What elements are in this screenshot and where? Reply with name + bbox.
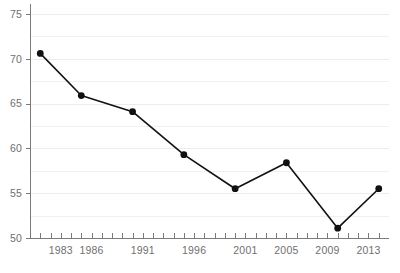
x-tick-label: 1996 bbox=[182, 244, 206, 256]
line-chart: 505560657075 198319861991199620012005200… bbox=[0, 0, 400, 273]
x-tick-label: 1983 bbox=[49, 244, 73, 256]
data-point-marker bbox=[375, 185, 382, 192]
chart-canvas: 505560657075 198319861991199620012005200… bbox=[0, 0, 400, 273]
y-tick-label: 60 bbox=[10, 142, 22, 154]
y-tick-label: 65 bbox=[10, 97, 22, 109]
chart-background bbox=[0, 0, 400, 273]
x-tick-label: 1986 bbox=[79, 244, 103, 256]
data-point-marker bbox=[129, 108, 136, 115]
y-tick-label: 55 bbox=[10, 187, 22, 199]
data-point-marker bbox=[180, 151, 187, 158]
x-tick-label: 2013 bbox=[356, 244, 380, 256]
data-point-marker bbox=[78, 92, 85, 99]
data-point-marker bbox=[334, 225, 341, 232]
data-point-marker bbox=[232, 185, 239, 192]
x-tick-label: 2001 bbox=[233, 244, 257, 256]
y-tick-label: 75 bbox=[10, 8, 22, 20]
x-tick-label: 1991 bbox=[131, 244, 155, 256]
y-tick-label: 50 bbox=[10, 232, 22, 244]
x-tick-label: 2009 bbox=[315, 244, 339, 256]
data-point-marker bbox=[283, 159, 290, 166]
y-tick-label: 70 bbox=[10, 53, 22, 65]
x-tick-label: 2005 bbox=[274, 244, 298, 256]
data-point-marker bbox=[37, 50, 44, 57]
